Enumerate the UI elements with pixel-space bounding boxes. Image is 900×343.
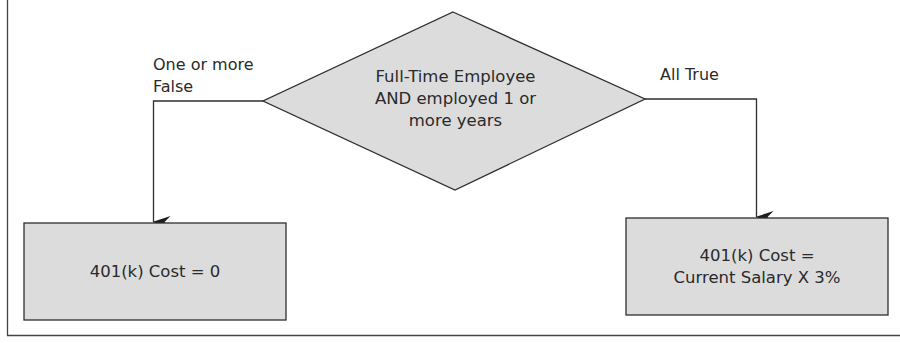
true-outcome-text: 401(k) Cost = Current Salary X 3% xyxy=(626,218,888,315)
decision-text-line: more years xyxy=(409,110,502,132)
false-branch-label-line: One or more xyxy=(153,54,254,76)
false-branch-label-line: False xyxy=(153,76,254,98)
decision-text-line: AND employed 1 or xyxy=(375,88,536,110)
false-branch-label: One or more False xyxy=(153,54,254,98)
decision-text: Full-Time Employee AND employed 1 or mor… xyxy=(333,64,578,134)
false-outcome-text: 401(k) Cost = 0 xyxy=(24,223,286,320)
false-outcome-text-line: 401(k) Cost = 0 xyxy=(90,261,221,283)
true-outcome-text-line: 401(k) Cost = xyxy=(700,245,815,267)
flowchart-canvas: One or more False All True Full-Time Emp… xyxy=(0,0,900,343)
true-outcome-text-line: Current Salary X 3% xyxy=(673,267,840,289)
true-branch-label: All True xyxy=(660,64,719,86)
decision-text-line: Full-Time Employee xyxy=(376,66,536,88)
true-branch-arrow xyxy=(645,99,757,217)
false-branch-arrow xyxy=(154,101,264,222)
true-branch-label-line: All True xyxy=(660,64,719,86)
